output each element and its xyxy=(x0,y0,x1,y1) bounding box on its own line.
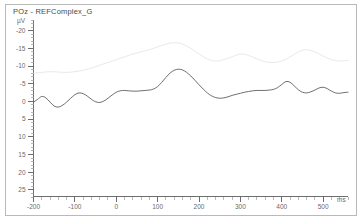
y-tick-label: 20 xyxy=(18,169,26,176)
x-tick-label: 200 xyxy=(194,203,205,210)
x-tick-label: 400 xyxy=(276,203,287,210)
x-tick-marks xyxy=(34,197,349,202)
overlay-trace-path xyxy=(34,43,349,73)
y-axis-group: -20-15-10-50510152025 xyxy=(16,20,33,197)
x-tick-label: 100 xyxy=(152,203,163,210)
y-tick-label: -15 xyxy=(16,45,26,52)
x-tick-label: -200 xyxy=(27,203,40,210)
y-tick-labels: -20-15-10-50510152025 xyxy=(16,27,26,193)
y-tick-label: 5 xyxy=(22,115,26,122)
y-tick-label: 25 xyxy=(18,186,26,193)
y-tick-label: -10 xyxy=(16,62,26,69)
erp-trace-path xyxy=(34,69,349,107)
data-traces xyxy=(34,43,349,107)
y-tick-label: 0 xyxy=(22,98,26,105)
x-tick-labels: -200-1000100200300400500 xyxy=(27,203,329,210)
x-tick-label: 300 xyxy=(235,203,246,210)
x-tick-label: 0 xyxy=(114,203,118,210)
y-tick-label: -5 xyxy=(20,80,26,87)
y-tick-label: 10 xyxy=(18,133,26,140)
x-axis-group: -200-1000100200300400500 xyxy=(27,197,348,210)
y-tick-marks xyxy=(28,20,34,197)
x-tick-label: 500 xyxy=(318,203,329,210)
erp-waveform-viewer: POz - REFComplex_G µV ms -20-15-10-50510… xyxy=(0,0,363,221)
erp-chart: -20-15-10-50510152025 -200-1000100200300… xyxy=(0,0,363,221)
x-tick-label: -100 xyxy=(68,203,81,210)
y-tick-label: -20 xyxy=(16,27,26,34)
y-tick-label: 15 xyxy=(18,151,26,158)
